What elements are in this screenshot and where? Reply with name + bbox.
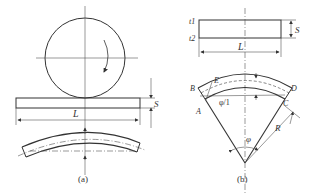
angle-label: φ (246, 134, 251, 144)
point-C: C (283, 99, 289, 108)
radius-label: R (274, 123, 281, 133)
partial-angle-label: φ/1 (219, 98, 230, 107)
point-D: D (290, 84, 297, 93)
bending-diagram: S L (a) t1 t2 (0, 0, 314, 195)
length-label-a: L (72, 108, 79, 119)
label-t2: t2 (189, 34, 195, 43)
length-dimension-a: L (16, 108, 140, 125)
label-t1: t1 (189, 17, 195, 26)
thickness-label-b: S (295, 25, 300, 35)
panel-b: t1 t2 S L (189, 8, 300, 195)
point-E: E (213, 76, 219, 85)
length-label-b: L (237, 41, 244, 52)
caption-b: (b) (237, 174, 248, 184)
bent-plate-a (18, 128, 145, 175)
point-B: B (190, 84, 195, 93)
thickness-label-a: S (154, 99, 159, 109)
panel-a: S L (a) (16, 6, 159, 184)
flat-plate-b (199, 20, 281, 38)
flat-plate (16, 98, 140, 108)
thickness-dimension-a: S (140, 78, 159, 128)
thickness-dimension-b: S (281, 20, 300, 38)
bent-sector-b (198, 73, 300, 163)
point-A: A (195, 107, 201, 116)
caption-a: (a) (78, 174, 88, 184)
length-dimension-b: L (199, 38, 281, 57)
